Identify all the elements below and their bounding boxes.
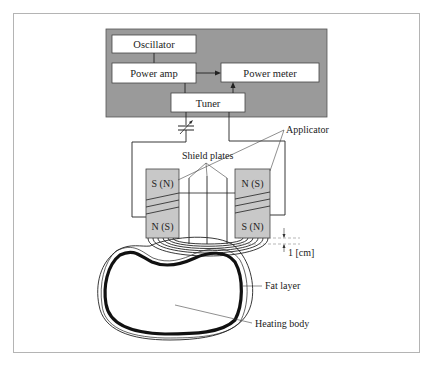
power-amp-label: Power amp xyxy=(130,68,178,79)
tuner-box: Tuner xyxy=(171,93,245,112)
oscillator-box: Oscillator xyxy=(112,35,196,53)
oscillator-label: Oscillator xyxy=(133,39,175,50)
fat-layer-label: Fat layer xyxy=(265,280,301,291)
right-magnet-top-label: N (S) xyxy=(242,178,264,190)
right-magnet: N (S) S (N) xyxy=(235,169,270,238)
rf-heating-diagram: Oscillator Power amp Power meter Tuner S… xyxy=(0,0,433,366)
left-magnet-top-label: S (N) xyxy=(152,178,174,190)
shield-plates-label: Shield plates xyxy=(182,150,233,161)
gap-label: 1 [cm] xyxy=(288,247,314,258)
power-meter-label: Power meter xyxy=(243,68,297,79)
heating-body-label: Heating body xyxy=(255,318,309,329)
left-magnet: S (N) N (S) xyxy=(146,169,179,238)
shield-plates xyxy=(189,176,227,244)
power-amp-box: Power amp xyxy=(112,63,196,83)
left-magnet-bottom-label: N (S) xyxy=(152,221,174,233)
tuner-label: Tuner xyxy=(196,98,221,109)
power-meter-box: Power meter xyxy=(221,63,319,82)
right-magnet-bottom-label: S (N) xyxy=(242,221,264,233)
fat-layer-outline xyxy=(105,252,241,334)
applicator-label: Applicator xyxy=(286,124,329,135)
